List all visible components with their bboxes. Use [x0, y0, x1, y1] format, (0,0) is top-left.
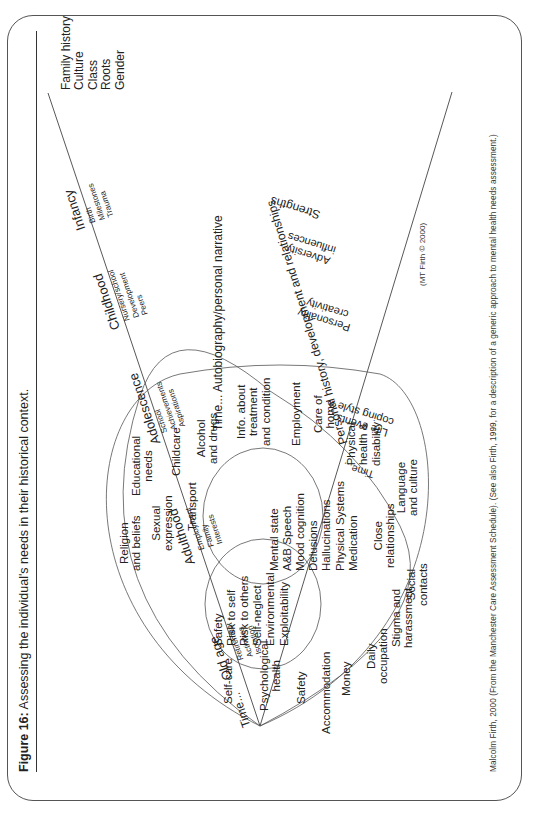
need-psychological-health: Psychologicalhealth [258, 641, 283, 711]
mental-state-circle-items: Mental state A&B Speech Mood cognition D… [268, 481, 360, 571]
need-close-relationships: Closerelationships [372, 503, 397, 568]
need-social-contacts: Socialcontacts [405, 563, 430, 606]
need-alcohol: Alcoholand drugs [195, 413, 220, 464]
need-info-treatment: Info. abouttreatmentand condition [235, 378, 272, 446]
need-care-of-home: Care ofhome [312, 395, 337, 433]
risk-circle-items: Safety Risk to self Risk to others Self-… [212, 572, 291, 646]
autobiography-label: Time... Autobiography/personal narrative [212, 215, 225, 431]
need-self-care: Self-care [222, 658, 234, 704]
need-educational: Educationalneeds [130, 436, 155, 496]
tip-items: Family history Culture Class Roots Gende… [60, 16, 127, 90]
need-childcare: Childcare [170, 427, 182, 476]
need-money: Money [340, 661, 352, 696]
rotated-page: Figure 16: Assessing the individual's ne… [0, 0, 550, 816]
need-sexual-expression: Sexualexpression [150, 495, 175, 551]
need-accommodation: Accommodation [320, 652, 332, 734]
need-safety: Safety [295, 671, 307, 704]
need-employment: Employment [290, 382, 302, 446]
need-daily-occupation: Dailyoccupation [365, 628, 390, 684]
need-physical-health: Physicalhealth &disability [345, 422, 382, 466]
footer-citation: Malcolm Firth, 2000 (From the Manchester… [489, 134, 498, 772]
copyright: (MT Firth © 2000) [418, 223, 427, 286]
need-language-culture: Languageand culture [395, 459, 420, 516]
need-transport: Transport [186, 482, 198, 531]
need-religion: Religionand beliefs [118, 515, 143, 571]
